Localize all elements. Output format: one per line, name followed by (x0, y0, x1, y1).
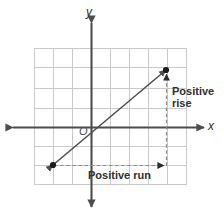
positive-run-label: Positive run (88, 170, 151, 182)
positive-rise-label-line2: rise (172, 98, 224, 110)
point-lower-left (50, 162, 56, 168)
x-axis-label: x (208, 120, 214, 133)
positive-rise-label-line1: Positive (172, 85, 214, 97)
point-upper-right (163, 67, 169, 73)
slope-diagram: y x O Positiverise Positive run (0, 0, 224, 216)
origin-label: O (79, 126, 88, 138)
positive-rise-label: Positiverise (172, 86, 224, 109)
y-axis-label: y (86, 6, 92, 19)
plotted-line (53, 70, 166, 165)
